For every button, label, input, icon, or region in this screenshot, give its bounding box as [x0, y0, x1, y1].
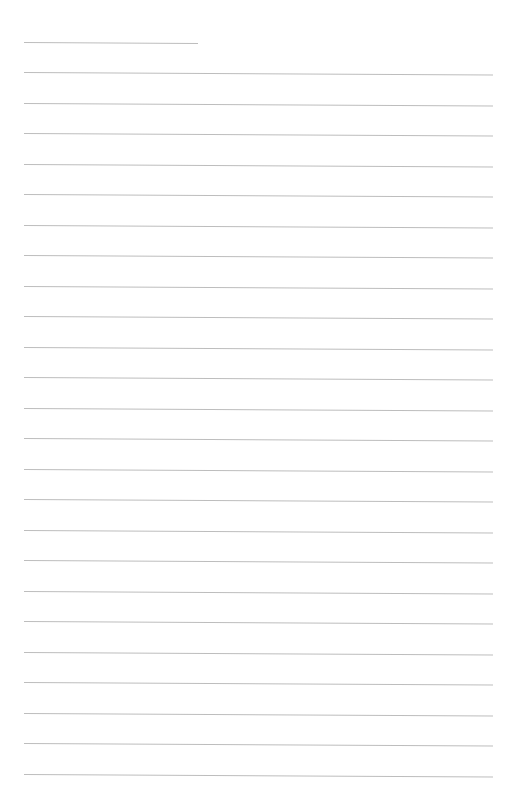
ruled-line — [24, 316, 493, 319]
ruled-line — [24, 72, 493, 75]
lined-paper-page — [0, 0, 512, 805]
ruled-line — [24, 194, 493, 197]
ruled-line — [24, 347, 493, 350]
ruled-line — [24, 408, 493, 411]
ruled-line — [24, 774, 493, 777]
ruled-line — [24, 103, 493, 106]
ruled-line — [24, 377, 493, 380]
ruled-line — [24, 530, 493, 533]
ruled-line — [24, 682, 493, 685]
ruled-line — [24, 713, 493, 716]
ruled-line — [24, 225, 493, 228]
short-ruled-line — [24, 42, 198, 44]
ruled-line — [24, 743, 493, 746]
ruled-line — [24, 469, 493, 472]
ruled-line — [24, 438, 493, 441]
ruled-line — [24, 560, 493, 563]
ruled-line — [24, 286, 493, 289]
ruled-line — [24, 499, 493, 502]
ruled-line — [24, 652, 493, 655]
ruled-line — [24, 621, 493, 624]
ruled-line — [24, 133, 493, 136]
ruled-line — [24, 591, 493, 594]
ruled-line — [24, 255, 493, 258]
ruled-line — [24, 164, 493, 167]
